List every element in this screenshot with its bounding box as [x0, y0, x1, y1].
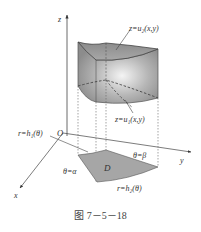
- solid-region-diagram: z z=u₂(x,y) z=u₁(x,y) r=h₁(θ) O θ=β y D …: [0, 0, 201, 232]
- upper-surface-label: z=u₂(x,y): [128, 24, 159, 33]
- x-axis: [20, 133, 63, 188]
- lower-surface-label: z=u₁(x,y): [114, 115, 145, 124]
- z-axis-label: z: [57, 15, 62, 24]
- x-axis-label: x: [13, 191, 18, 200]
- figure-caption: 图 7－5－18: [0, 207, 201, 222]
- ray-alpha-label: θ=α: [63, 167, 77, 176]
- outer-curve-label: r=h₂(θ): [117, 184, 142, 193]
- region-label: D: [103, 163, 111, 173]
- origin-label: O: [57, 128, 63, 138]
- y-axis: [63, 133, 191, 152]
- y-axis-label: y: [179, 156, 184, 165]
- inner-curve-label: r=h₁(θ): [18, 129, 43, 138]
- ray-beta-label: θ=β: [133, 151, 146, 160]
